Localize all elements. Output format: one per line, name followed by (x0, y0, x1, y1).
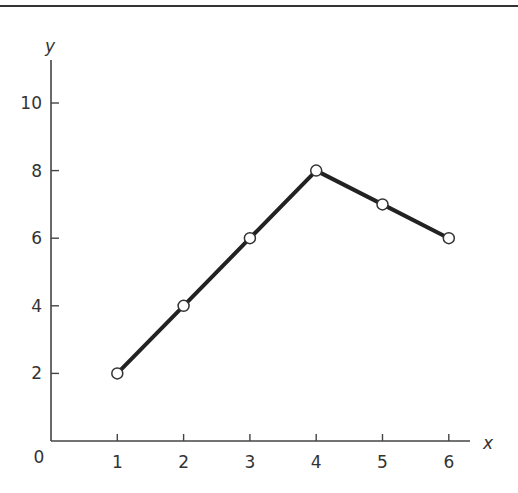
axes (51, 60, 470, 441)
y-axis-label: y (44, 36, 56, 56)
x-tick-label: 1 (112, 452, 123, 472)
y-tick-label: 6 (31, 228, 42, 248)
x-tick-label: 4 (311, 452, 322, 472)
series-line (117, 171, 449, 374)
x-tick-label: 3 (244, 452, 255, 472)
data-point-marker (377, 199, 388, 210)
x-ticks: 123456 (112, 434, 454, 472)
y-ticks: 246810 (20, 93, 59, 383)
y-tick-label: 4 (31, 296, 42, 316)
data-point-marker (443, 233, 454, 244)
y-tick-label: 8 (31, 161, 42, 181)
data-point-marker (178, 300, 189, 311)
y-tick-label: 10 (20, 93, 42, 113)
origin-label: 0 (34, 447, 45, 467)
data-point-marker (311, 165, 322, 176)
data-markers (112, 165, 455, 379)
x-axis-label: x (482, 433, 494, 453)
data-point-marker (112, 368, 123, 379)
x-tick-label: 6 (443, 452, 454, 472)
line-chart: 123456 246810 x y 0 (0, 0, 518, 493)
data-point-marker (244, 233, 255, 244)
x-tick-label: 2 (178, 452, 189, 472)
x-tick-label: 5 (377, 452, 388, 472)
y-tick-label: 2 (31, 363, 42, 383)
